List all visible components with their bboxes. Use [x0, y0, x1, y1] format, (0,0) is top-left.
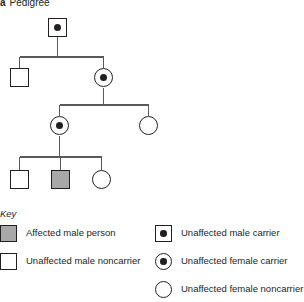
pedigree-symbol-I-1	[48, 18, 67, 37]
legend-item-label: Unaffected male noncarrier	[26, 255, 140, 267]
pedigree-symbol-II-1	[10, 68, 29, 87]
legend-column-right: Unaffected male carrier Unaffected femal…	[155, 222, 303, 302]
legend-title: Key	[0, 208, 16, 219]
legend-item-unaffected-female-carrier: Unaffected female carrier	[155, 250, 303, 278]
square-open-icon	[0, 253, 17, 270]
pedigree-symbol-IV-1	[10, 170, 29, 189]
legend-item-unaffected-male-noncarrier: Unaffected male noncarrier	[0, 250, 150, 278]
legend-item-label: Affected male person	[26, 227, 116, 239]
pedigree-symbol-III-2	[139, 116, 158, 135]
pedigree-symbol-IV-2	[51, 170, 70, 189]
pedigree-symbol-IV-3	[92, 170, 111, 189]
carrier-dot-icon	[160, 230, 167, 237]
legend-item-label: Unaffected male carrier	[181, 227, 280, 239]
legend-column-left: Affected male person Unaffected male non…	[0, 222, 150, 278]
pedigree-symbol-II-2	[94, 68, 113, 87]
legend-item-unaffected-male-carrier: Unaffected male carrier	[155, 222, 303, 250]
circle-dot-icon	[155, 253, 172, 270]
carrier-dot-icon	[54, 24, 61, 31]
circle-open-icon	[155, 281, 172, 298]
square-filled-icon	[0, 225, 17, 242]
legend-item-label: Unaffected female carrier	[181, 255, 288, 267]
legend-item-affected-male-person: Affected male person	[0, 222, 150, 250]
carrier-dot-icon	[56, 122, 63, 129]
square-dot-icon	[155, 225, 172, 242]
carrier-dot-icon	[100, 74, 107, 81]
pedigree-symbol-III-1	[50, 116, 69, 135]
legend-item-label: Unaffected female noncarrier	[181, 283, 303, 295]
carrier-dot-icon	[160, 258, 167, 265]
pedigree-connector-lines	[0, 0, 303, 205]
legend-item-unaffected-female-noncarrier: Unaffected female noncarrier	[155, 278, 303, 302]
pedigree-diagram	[0, 0, 303, 205]
